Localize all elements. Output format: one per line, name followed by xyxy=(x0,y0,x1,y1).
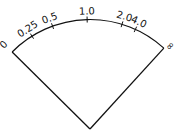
left-radius-line xyxy=(12,52,90,129)
label-infinity: ∞ xyxy=(164,40,175,54)
tick-label: 1.0 xyxy=(79,5,95,16)
tick-label: 0.25 xyxy=(15,18,40,39)
right-radius-line xyxy=(90,48,164,129)
tick-label: 0.5 xyxy=(40,10,59,26)
label-zero: 0 xyxy=(0,38,10,50)
sector-svg: 0.250.51.02.04.0 0 ∞ xyxy=(0,0,175,135)
sector-diagram: 0.250.51.02.04.0 0 ∞ xyxy=(0,0,175,135)
